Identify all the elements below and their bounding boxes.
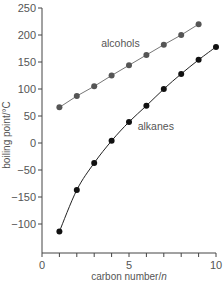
y-tick-label: 100 — [18, 83, 36, 95]
alkanes-data-point — [161, 86, 167, 92]
x-tick-label: 10 — [210, 259, 222, 271]
plot-series: alcoholsalkanes — [56, 21, 219, 234]
series-alcohols: alcohols — [56, 21, 201, 110]
x-axis-title-text: carbon number/ — [91, 271, 161, 282]
y-axis-title: boiling point/°C — [1, 101, 12, 168]
x-tick-label: 0 — [39, 259, 45, 271]
alcohols-data-point — [126, 62, 132, 68]
alkanes-data-point — [109, 138, 115, 144]
alcohols-data-point — [196, 21, 202, 27]
y-tick-label: −50 — [17, 164, 36, 176]
alkanes-data-point — [91, 160, 97, 166]
alkanes-data-point — [213, 44, 219, 50]
alkanes-data-point — [178, 71, 184, 77]
alcohols-data-point — [109, 73, 115, 79]
alkanes-label: alkanes — [138, 120, 174, 132]
alcohols-data-point — [143, 52, 149, 58]
alcohols-data-point — [56, 104, 62, 110]
y-tick-label: 200 — [18, 29, 36, 41]
y-tick-label: −100 — [11, 218, 36, 230]
y-tick-label: −150 — [11, 191, 36, 203]
alkanes-data-point — [56, 229, 62, 235]
series-alkanes: alkanes — [56, 44, 219, 235]
alcohols-data-point — [161, 42, 167, 48]
alcohols-label: alcohols — [101, 37, 140, 49]
boiling-point-chart: 250200150100500−50−150−100 0510 alcohols… — [0, 0, 223, 287]
y-tick-label: 250 — [18, 2, 36, 14]
x-axis: 0510 — [39, 253, 222, 271]
x-axis-title: carbon number/n — [91, 271, 167, 282]
alcohols-data-point — [178, 32, 184, 38]
alkanes-line — [59, 47, 216, 232]
alkanes-data-point — [126, 119, 132, 125]
y-tick-label: 50 — [24, 110, 36, 122]
y-axis: 250200150100500−50−150−100 — [11, 2, 42, 253]
alcohols-data-point — [74, 93, 80, 99]
x-axis-title-italic: n — [161, 271, 167, 282]
alkanes-data-point — [74, 187, 80, 193]
alcohols-data-point — [91, 83, 97, 89]
alkanes-data-point — [196, 57, 202, 63]
y-tick-label: 0 — [30, 137, 36, 149]
x-tick-label: 5 — [126, 259, 132, 271]
y-tick-label: 150 — [18, 56, 36, 68]
alkanes-data-point — [143, 103, 149, 109]
